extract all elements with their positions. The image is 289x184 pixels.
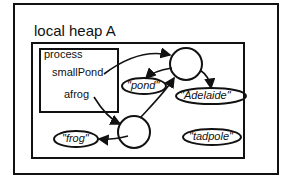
variable-smallpond: smallPond (52, 66, 103, 78)
pond-object (170, 48, 202, 80)
frog-object (118, 116, 150, 148)
string-tadpole: "tadpole" (189, 130, 233, 142)
heap-title: local heap A (34, 22, 116, 39)
string-frog: "frog" (62, 132, 89, 144)
string-adelaide: "Adelaide" (180, 89, 231, 101)
variable-afrog: afrog (64, 88, 89, 100)
string-pond: "pond" (127, 79, 159, 91)
process-label: process (44, 48, 83, 60)
